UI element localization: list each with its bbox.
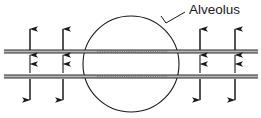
alveolus-diagram: Alveolus [0, 0, 261, 118]
alveolus-circle-outline [83, 16, 179, 112]
alveolus-label: Alveolus [189, 2, 240, 17]
alveolus-leader-stroke [161, 12, 185, 23]
diagram-canvas: Alveolus [0, 0, 261, 118]
alveolus-circle [83, 16, 179, 112]
upper-membrane [4, 50, 258, 53]
alveolus-leader-line [161, 12, 185, 23]
membrane-lines-group [4, 50, 258, 78]
lower-membrane [4, 75, 258, 78]
gas-exchange-arrows-group [30, 29, 235, 100]
